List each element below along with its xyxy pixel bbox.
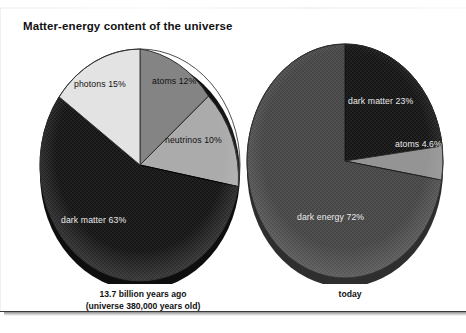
slice-label-photons: photons 15% (74, 79, 126, 89)
slice-label-atoms-past: atoms 12% (152, 76, 196, 86)
page-top-rule (0, 7, 466, 9)
page-title: Matter-energy content of the universe (23, 20, 232, 32)
figure-bottom-shadow (4, 312, 466, 316)
pie-past-svg (22, 34, 254, 284)
page-left-edge (0, 7, 1, 312)
caption-past: 13.7 billion years ago (universe 380,000… (48, 289, 238, 312)
pie-chart-today (238, 34, 462, 284)
caption-today: today (300, 289, 400, 301)
slice-label-dark-matter-past: dark matter 63% (61, 215, 126, 225)
caption-today-line1: today (300, 289, 400, 301)
slice-label-atoms-today: atoms 4.6% (395, 139, 442, 149)
slice-label-dark-energy-today: dark energy 72% (297, 212, 364, 222)
slice-label-neutrinos: neutrinos 10% (165, 135, 222, 145)
pie-today-svg (238, 34, 462, 284)
figure-canvas: Matter-energy content of the universe (0, 0, 466, 333)
caption-past-line1: 13.7 billion years ago (48, 289, 238, 301)
slice-label-dark-matter-today: dark matter 23% (348, 96, 413, 106)
pie-chart-past (22, 34, 254, 284)
